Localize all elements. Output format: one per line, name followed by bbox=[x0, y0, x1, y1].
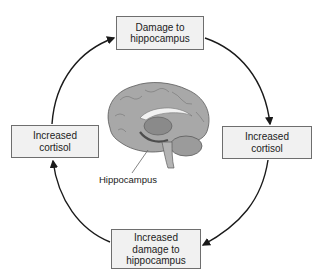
hippocampus-callout-line bbox=[132, 150, 148, 173]
node-text-line: Damage to bbox=[136, 22, 185, 34]
node-text-line: damage to bbox=[132, 244, 179, 256]
hippocampus-label: Hippocampus bbox=[99, 174, 157, 185]
node-increased-cortisol-left: Increased cortisol bbox=[11, 125, 99, 158]
cerebellum bbox=[170, 136, 202, 156]
node-damage-to-hippocampus: Damage to hippocampus bbox=[116, 16, 204, 50]
node-text-line: hippocampus bbox=[126, 255, 185, 267]
node-text-line: cortisol bbox=[39, 142, 71, 154]
thalamus bbox=[144, 117, 172, 135]
node-text-line: cortisol bbox=[251, 143, 283, 155]
node-text-line: Increased bbox=[245, 131, 289, 143]
node-increased-damage-to-hippocampus: Increased damage to hippocampus bbox=[111, 229, 201, 269]
brain-stem bbox=[162, 142, 174, 168]
node-text-line: Increased bbox=[33, 130, 77, 142]
node-text-line: hippocampus bbox=[130, 33, 189, 45]
node-increased-cortisol-right: Increased cortisol bbox=[222, 126, 312, 159]
node-text-line: Increased bbox=[134, 232, 178, 244]
